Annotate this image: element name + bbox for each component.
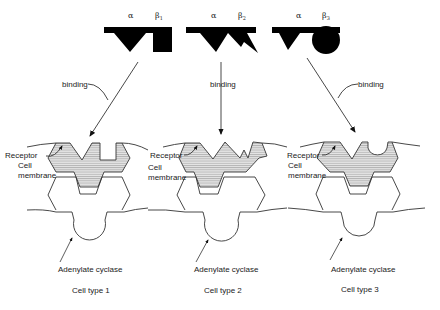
cell-membrane-label-2: membrane xyxy=(148,173,187,182)
binding-label: binding xyxy=(358,80,384,89)
hormone-2: α β2 xyxy=(186,11,258,53)
cell-type-1: Receptor Cell membrane Adenylate cyclase… xyxy=(5,143,148,295)
receptor-label: Receptor xyxy=(150,151,183,160)
receptor-3 xyxy=(317,142,398,186)
receptor-1 xyxy=(48,143,130,187)
hormone-3: α β3 xyxy=(272,11,340,54)
hormone-1-shape xyxy=(104,27,172,52)
adenylate-cyclase-label: Adenylate cyclase xyxy=(58,265,123,274)
alpha-label: α xyxy=(128,11,134,20)
beta-label: β1 xyxy=(155,11,163,21)
hormone-2-shape xyxy=(186,27,258,53)
hormone-1: α β1 xyxy=(104,11,172,52)
binding-arrow-2: binding xyxy=(210,62,236,134)
binding-arrow-1: binding xyxy=(62,62,138,136)
adenylate-cyclase-label: Adenylate cyclase xyxy=(194,265,259,274)
cell-membrane-label-1: Cell xyxy=(288,161,302,170)
adenylate-cyclase-label: Adenylate cyclase xyxy=(331,265,396,274)
cell-caption-2: Cell type 2 xyxy=(204,286,242,295)
alpha-label: α xyxy=(296,11,302,20)
cell-caption-3: Cell type 3 xyxy=(341,285,379,294)
receptor-diagram: α β1 α β2 α β3 binding binding binding xyxy=(0,0,440,310)
cell-membrane-label-1: Cell xyxy=(18,161,32,170)
receptor-label: Receptor xyxy=(5,151,38,160)
binding-label: binding xyxy=(62,80,88,89)
cell-type-3: Receptor Cell membrane Adenylate cyclase… xyxy=(287,142,425,294)
cell-type-2: Receptor Cell membrane Adenylate cyclase… xyxy=(148,142,287,295)
cell-membrane-label-2: membrane xyxy=(18,171,57,180)
cell-caption-1: Cell type 1 xyxy=(72,286,110,295)
binding-arrow-3: binding xyxy=(307,58,384,132)
alpha-label: α xyxy=(211,11,217,20)
binding-label: binding xyxy=(210,80,236,89)
receptor-label: Receptor xyxy=(287,151,320,160)
beta-label: β2 xyxy=(238,11,246,21)
beta-label: β3 xyxy=(322,11,330,21)
cell-membrane-label-2: membrane xyxy=(288,171,327,180)
cell-membrane-label-1: Cell xyxy=(148,163,162,172)
